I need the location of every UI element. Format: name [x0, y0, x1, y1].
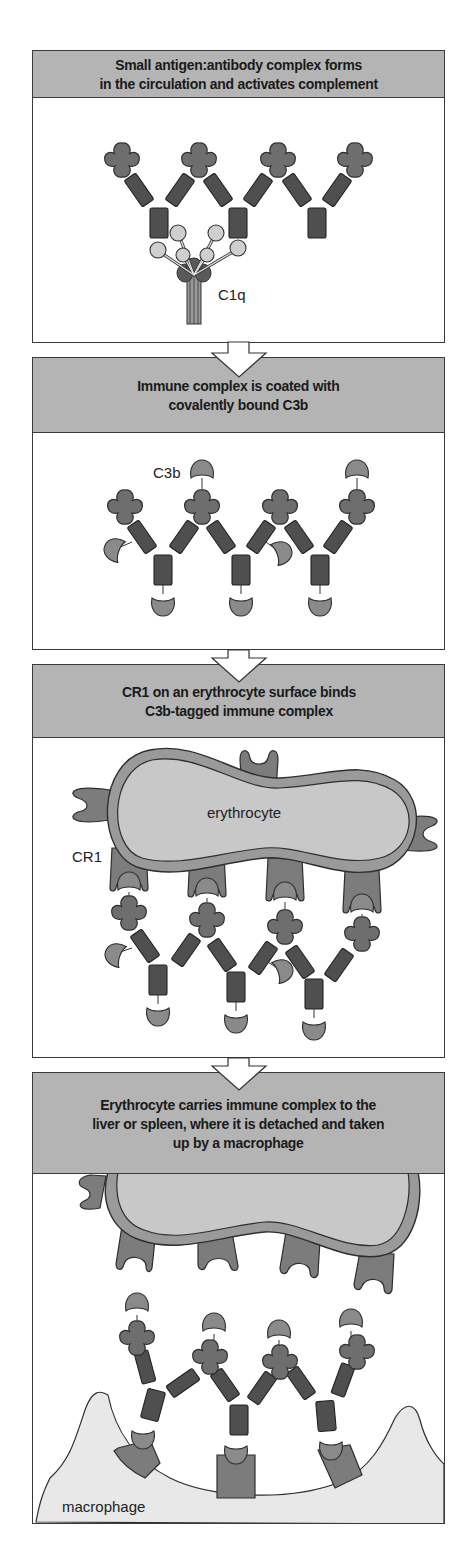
c3b-label: C3b — [153, 464, 181, 481]
erythrocyte-label: erythrocyte — [207, 804, 281, 821]
arrow-down-icon — [212, 650, 266, 682]
panel-3-erythrocyte-binding: erythrocyte CR1 — [72, 748, 437, 1040]
panel-4-macrophage-uptake: macrophage — [36, 1172, 444, 1524]
panel-2-c3b-coated-complex: C3b — [101, 460, 375, 616]
arrow-down-icon — [212, 342, 266, 377]
c1q-label: C1q — [218, 286, 246, 303]
c1q-icon — [150, 225, 246, 324]
arrow-down-icon — [212, 1058, 266, 1090]
macrophage-label: macrophage — [62, 1498, 145, 1515]
panel-1-immune-complex: C1q — [105, 143, 373, 324]
diagram-illustrations: C1q C3b — [0, 0, 471, 1551]
cr1-label: CR1 — [72, 848, 102, 865]
